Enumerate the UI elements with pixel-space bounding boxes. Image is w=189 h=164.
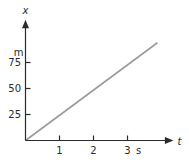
x-tick-label: 3 (124, 145, 130, 156)
x-tick-label: 2 (90, 145, 96, 156)
x-tick-label: 1 (56, 145, 62, 156)
position-time-graph-figure: xm255075ts123 (0, 0, 189, 164)
x-axis-unit-label: s (136, 145, 141, 156)
y-axis-unit-label: m (14, 47, 24, 58)
chart-canvas: xm255075ts123 (0, 0, 189, 164)
y-axis-label: x (22, 5, 29, 16)
y-tick-label: 75 (8, 57, 21, 68)
y-tick-label: 25 (8, 109, 21, 120)
chart-background (0, 0, 189, 164)
y-tick-label: 50 (8, 83, 21, 94)
